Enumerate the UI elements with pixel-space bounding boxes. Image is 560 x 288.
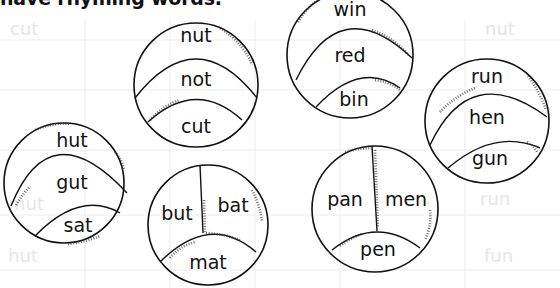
rhyme-circle-2: win red bin	[287, 0, 413, 118]
rhyme-circle-1: nut not cut	[134, 23, 258, 147]
word-bin[interactable]: bin	[339, 88, 368, 110]
word-but[interactable]: but	[161, 202, 193, 224]
word-gun[interactable]: gun	[472, 147, 508, 169]
word-nut[interactable]: nut	[180, 24, 212, 46]
bleed-word: fun	[484, 245, 513, 266]
bleed-word: nut	[485, 18, 515, 39]
word-cut[interactable]: cut	[181, 115, 211, 137]
word-hen[interactable]: hen	[469, 106, 505, 128]
rhyme-circle-4: but bat mat	[148, 165, 268, 285]
word-sat[interactable]: sat	[64, 214, 93, 236]
bleed-word: cut	[10, 18, 38, 39]
bleed-word: run	[480, 188, 510, 209]
word-win[interactable]: win	[334, 0, 367, 20]
rhyme-circle-5: pan men pen	[312, 146, 438, 272]
shading-speckle	[340, 234, 362, 246]
word-pen[interactable]: pen	[360, 238, 396, 260]
word-mat[interactable]: mat	[189, 251, 227, 273]
worksheet-page: cut nut mut hut run fun nut not cut w	[0, 0, 560, 288]
rhyme-circle-3: hut gut sat	[4, 123, 127, 244]
instruction-text: have rhyming words.	[0, 0, 222, 9]
word-men[interactable]: men	[385, 188, 427, 210]
word-bat[interactable]: bat	[217, 194, 248, 216]
word-gut[interactable]: gut	[56, 171, 88, 193]
word-not[interactable]: not	[180, 68, 211, 90]
worksheet-canvas: cut nut mut hut run fun nut not cut w	[0, 0, 560, 288]
shading-speckle	[204, 200, 205, 232]
word-red[interactable]: red	[334, 44, 365, 66]
shading-speckle	[220, 28, 252, 65]
bleed-word: hut	[8, 245, 38, 266]
shading-speckle	[528, 76, 546, 110]
band-divider	[200, 165, 203, 233]
bleed-word: mut	[8, 193, 44, 214]
word-hut[interactable]: hut	[56, 129, 88, 151]
word-run[interactable]: run	[471, 65, 503, 87]
word-pan[interactable]: pan	[327, 188, 363, 210]
rhyme-circle-6: run hen gun	[425, 59, 549, 183]
